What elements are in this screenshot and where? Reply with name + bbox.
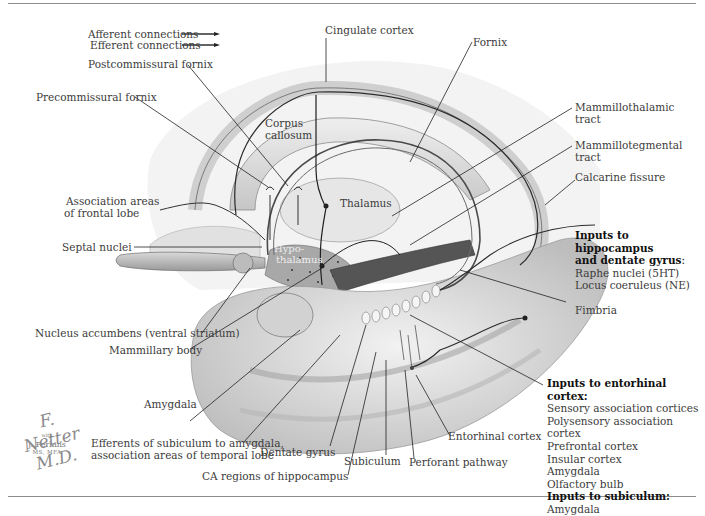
inputs-entorhinal-item: Sensory association cortices: [547, 402, 705, 415]
afferent-arrowhead: [214, 32, 220, 36]
label-cingulate-cortex: Cingulate cortex: [325, 24, 414, 37]
label-efferents-subiculum-line2: association areas of temporal lobe: [91, 449, 274, 462]
artist-signature: F. Netter M.D. with J. Perkins MS, MFA: [18, 410, 76, 455]
inputs-hippocampus-block: Inputs to hippocampus and dentate gyrus:…: [575, 229, 705, 292]
heading-text: and dentate gyrus: [575, 254, 681, 266]
inputs-hippocampus-heading-2: and dentate gyrus:: [575, 254, 705, 267]
label-ca-regions: CA regions of hippocampus: [202, 470, 348, 483]
inputs-entorhinal-item: Olfactory bulb: [547, 478, 705, 491]
label-mammillary-body: Mammillary body: [109, 344, 202, 357]
label-mammillothalamic-line1: Mammillothalamic: [575, 101, 674, 114]
label-fornix: Fornix: [473, 36, 507, 49]
inputs-subiculum-heading: Inputs to subiculum:: [547, 490, 705, 503]
label-hypothalamus-line2: thalamus: [276, 254, 323, 265]
label-entorhinal-cortex: Entorhinal cortex: [448, 430, 541, 443]
label-calcarine-fissure: Calcarine fissure: [575, 171, 665, 184]
label-mammillotegmental-line1: Mammillotegmental: [575, 139, 682, 152]
inputs-subiculum-item: Amygdala: [547, 503, 705, 516]
inputs-hippocampus-item: Locus coeruleus (NE): [575, 279, 705, 292]
label-dentate-gyrus: Dentate gyrus: [260, 446, 335, 459]
inputs-hippocampus-item: Raphe nuclei (5HT): [575, 267, 705, 280]
inputs-entorhinal-block: Inputs to entorhinal cortex: Sensory ass…: [547, 377, 705, 516]
label-postcommissural-fornix: Postcommissural fornix: [88, 58, 213, 71]
label-amygdala: Amygdala: [144, 398, 197, 411]
label-thalamus: Thalamus: [340, 197, 392, 210]
label-association-frontal-line2: of frontal lobe: [64, 207, 139, 220]
label-association-frontal-line1: Association areas: [66, 195, 159, 208]
label-mammillotegmental-line2: tract: [575, 151, 601, 164]
septal-sphere: [233, 253, 253, 273]
inputs-entorhinal-item: Insular cortex: [547, 453, 705, 466]
label-efferents-subiculum-line1: Efferents of subiculum to amygdala,: [91, 437, 284, 450]
label-subiculum: Subiculum: [344, 455, 401, 468]
heading-colon: :: [681, 254, 685, 266]
legend-efferent: Efferent connections: [90, 39, 201, 52]
inputs-entorhinal-item: Polysensory association cortex: [547, 415, 705, 440]
label-hypothalamus-line1: Hypo-: [274, 243, 304, 254]
label-corpus-callosum-line2: callosum: [265, 129, 312, 142]
efferent-arrowhead: [214, 43, 220, 47]
label-precommissural-fornix: Precommissural fornix: [36, 91, 157, 104]
inputs-hippocampus-heading-1: Inputs to hippocampus: [575, 229, 705, 254]
inputs-entorhinal-item: Prefrontal cortex: [547, 440, 705, 453]
label-perforant-pathway: Perforant pathway: [409, 456, 508, 469]
label-nucleus-accumbens: Nucleus accumbens (ventral striatum): [35, 327, 240, 340]
inputs-entorhinal-item: Amygdala: [547, 465, 705, 478]
label-septal-nuclei: Septal nuclei: [62, 241, 132, 254]
amygdala-shape: [257, 293, 313, 337]
inputs-entorhinal-heading: Inputs to entorhinal cortex:: [547, 377, 705, 402]
label-fimbria: Fimbria: [575, 304, 617, 317]
label-corpus-callosum-line1: Corpus: [265, 117, 303, 130]
label-mammillothalamic-line2: tract: [575, 113, 601, 126]
